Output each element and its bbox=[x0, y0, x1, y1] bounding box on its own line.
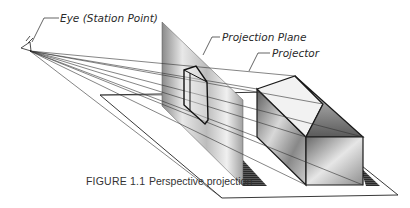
projection-plane-leader bbox=[203, 37, 220, 55]
figure-caption: Perspective projection bbox=[149, 175, 252, 187]
projector-leader bbox=[249, 53, 270, 71]
projector-label: Projector bbox=[272, 47, 320, 59]
figure-number: FIGURE 1.1 bbox=[86, 175, 145, 187]
eye-label: Eye (Station Point) bbox=[60, 12, 158, 24]
eye-icon bbox=[21, 36, 33, 51]
eye-leader bbox=[32, 18, 59, 42]
house-front-face bbox=[306, 137, 363, 185]
projection-plane-label: Projection Plane bbox=[222, 31, 306, 43]
